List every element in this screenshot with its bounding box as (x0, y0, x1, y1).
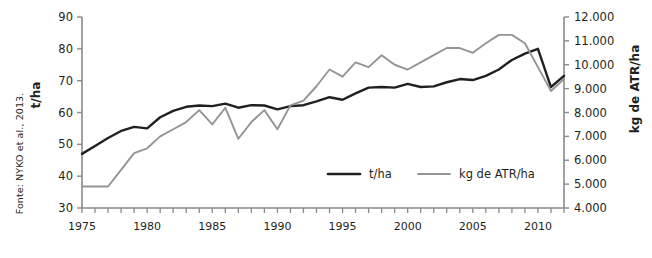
left-tick-label: 70 (58, 74, 73, 88)
series-lines (82, 35, 564, 187)
left-axis: 30405060708090 (58, 10, 82, 215)
legend-label: kg de ATR/ha (459, 167, 535, 181)
left-tick-label: 90 (58, 10, 73, 24)
chart-legend: t/hakg de ATR/ha (328, 167, 535, 181)
right-axis: 4.0005.0006.0007.0008.0009.00010.00011.0… (564, 10, 614, 215)
series-line-tha (82, 49, 564, 154)
x-tick-label: 1980 (133, 220, 161, 233)
x-axis: 19751980198519901995200020052010 (68, 208, 564, 233)
x-tick-label: 2000 (394, 220, 422, 233)
x-tick-label: 1990 (263, 220, 291, 233)
right-tick-label: 9.000 (574, 82, 607, 96)
right-tick-label: 12.000 (574, 10, 614, 24)
right-tick-label: 4.000 (574, 201, 607, 215)
left-tick-label: 30 (58, 201, 73, 215)
x-tick-label: 1985 (198, 220, 226, 233)
chart-svg: 30405060708090 4.0005.0006.0007.0008.000… (0, 0, 652, 258)
right-tick-label: 10.000 (574, 58, 614, 72)
x-tick-label: 1995 (329, 220, 357, 233)
left-tick-label: 50 (58, 137, 73, 151)
left-tick-label: 60 (58, 106, 73, 120)
legend-label: t/ha (369, 167, 392, 181)
left-tick-label: 40 (58, 169, 73, 183)
x-tick-label: 1975 (68, 220, 96, 233)
right-tick-label: 11.000 (574, 34, 614, 48)
right-tick-label: 5.000 (574, 177, 607, 191)
left-tick-label: 80 (58, 42, 73, 56)
series-line-atr (82, 35, 564, 187)
x-tick-label: 2005 (459, 220, 487, 233)
right-tick-label: 7.000 (574, 129, 607, 143)
right-tick-label: 6.000 (574, 153, 607, 167)
right-tick-label: 8.000 (574, 106, 607, 120)
chart-container: Fonte: NYKO et al., 2013. t/ha kg de ATR… (0, 0, 652, 258)
x-tick-label: 2010 (524, 220, 552, 233)
